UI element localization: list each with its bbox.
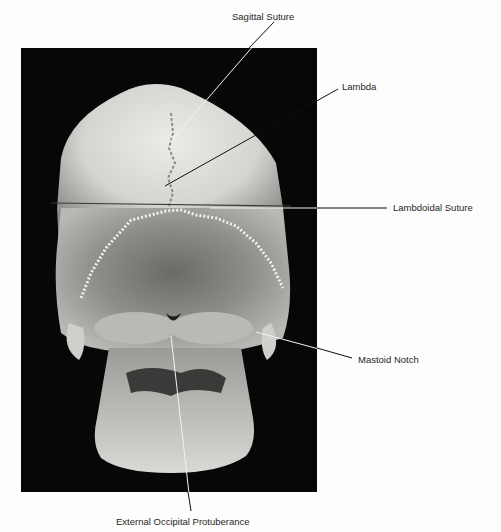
leader-lines bbox=[0, 0, 501, 532]
label-external-occipital-protuberance: External Occipital Protuberance bbox=[116, 516, 250, 527]
label-lambdoidal-suture: Lambdoidal Suture bbox=[393, 202, 473, 213]
label-sagittal-suture: Sagittal Suture bbox=[232, 11, 294, 22]
external-occipital-protuberance-leader bbox=[171, 336, 191, 511]
label-lambda: Lambda bbox=[342, 81, 376, 92]
label-mastoid-notch: Mastoid Notch bbox=[358, 354, 419, 365]
sagittal-suture-leader bbox=[170, 22, 274, 142]
lambda-leader bbox=[165, 89, 338, 186]
